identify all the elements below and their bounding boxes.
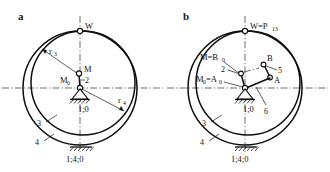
panel-b-leader-b0	[224, 62, 240, 74]
panel-b: b W=P 13 M=B 0 M 0 =A 0 2	[167, 10, 328, 164]
panel-a-label-circle-3: 3	[37, 119, 41, 128]
panel-b-letter: b	[183, 10, 189, 22]
panel-b-label-m-eq-b0: M=B	[200, 52, 218, 62]
panel-a-pivot-triangle	[72, 89, 88, 99]
panel-a-label-circle-4: 4	[35, 138, 39, 147]
panel-a-joint-w	[77, 28, 82, 33]
panel-a-label-m: M	[84, 64, 92, 74]
panel-b-leader-a0	[224, 82, 243, 87]
panel-b-leader-6	[256, 87, 266, 105]
panel-b-joint-b	[261, 62, 266, 67]
panel-a-radius-label-r4: r	[118, 95, 121, 105]
panel-a-circle-3	[31, 31, 135, 135]
panel-b-label-circle-3: 3	[202, 119, 206, 128]
panel-a-radius-label-r3-sub: 3	[54, 51, 57, 57]
panel-a-radius-arrow-r4	[119, 106, 124, 111]
panel-b-joint-b0	[239, 71, 244, 76]
panel-a-label-pivot: 1;0	[78, 104, 89, 114]
panel-a-radius-label-r3: r	[49, 46, 52, 56]
panel-b-link-6	[246, 78, 270, 88]
panel-a-letter: a	[18, 10, 24, 22]
panel-a-label-m0-sub: 0	[67, 80, 70, 86]
panel-b-leader-3	[211, 115, 222, 122]
panel-a-radius-arrow-r3	[42, 49, 47, 54]
panel-b-label-pivot: 1;0	[243, 104, 254, 114]
panel-a-joint-m	[76, 71, 81, 76]
panel-a-radius-line-r3	[42, 49, 78, 74]
panel-a-leader-3	[46, 115, 57, 122]
panel-b-joint-w	[242, 28, 247, 33]
panel-b-label-6: 6	[264, 107, 268, 116]
panel-b-label-w: W=P	[250, 21, 268, 31]
panel-b-label-w-sub: 13	[272, 26, 278, 32]
panel-b-label-5: 5	[278, 66, 282, 75]
panel-b-leader-5	[266, 66, 277, 70]
panel-b-label-point-b: B	[267, 53, 273, 63]
kinematic-figure: a r 3 r 4 W M M 0 2	[0, 0, 330, 172]
panel-b-label-a0: =A	[206, 74, 218, 84]
panel-b-pivot-triangle	[237, 89, 253, 99]
panel-a-radius-label-r4-sub: 4	[123, 100, 126, 106]
panel-b-label-point-a: A	[274, 75, 281, 85]
panel-b-label-circle-4: 4	[200, 138, 204, 147]
panel-a-label-2: 2	[85, 76, 89, 85]
panel-b-label-ground: 1;4;0	[231, 154, 248, 164]
panel-b-label-a0-sub: 0	[219, 79, 222, 85]
panel-a-label-ground: 1;4;0	[66, 154, 83, 164]
panel-b-label-2: 2	[221, 65, 225, 74]
panel-b-connector-b0-b	[244, 68, 259, 72]
panel-a-label-w: W	[85, 21, 93, 31]
panel-a: a r 3 r 4 W M M 0 2	[2, 10, 163, 164]
